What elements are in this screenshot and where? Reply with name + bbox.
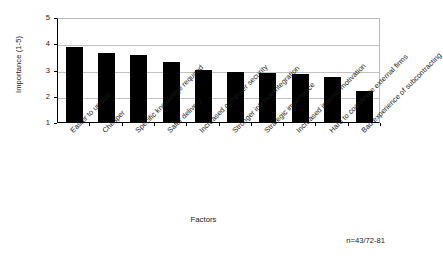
x-axis-title-text: Factors bbox=[191, 215, 217, 224]
y-axis-tick-label: 1 bbox=[30, 119, 50, 127]
x-axis-tick-mark bbox=[348, 123, 349, 126]
x-axis-tick-mark bbox=[154, 123, 155, 126]
bar bbox=[130, 55, 147, 122]
x-axis-title: Factors bbox=[0, 215, 397, 224]
y-axis-tick-label: 3 bbox=[30, 67, 50, 75]
x-axis-tick-mark bbox=[89, 123, 90, 126]
gridline bbox=[58, 45, 379, 46]
x-axis-tick-mark bbox=[251, 123, 252, 126]
y-axis-tick-label: 5 bbox=[30, 14, 50, 22]
x-axis-tick-mark bbox=[186, 123, 187, 126]
y-axis-tick-mark bbox=[54, 123, 57, 124]
sample-size-note: n=43/72-81 bbox=[346, 236, 385, 245]
y-axis-title: Importance (1-5) bbox=[14, 15, 23, 115]
y-axis-tick-label: 4 bbox=[30, 40, 50, 48]
x-axis-tick-mark bbox=[219, 123, 220, 126]
x-axis-tick-mark bbox=[283, 123, 284, 126]
x-axis-tick-mark bbox=[380, 123, 381, 126]
bar bbox=[98, 53, 115, 122]
x-axis-tick-mark bbox=[122, 123, 123, 126]
bar bbox=[66, 47, 83, 122]
x-axis-tick-mark bbox=[315, 123, 316, 126]
y-axis-tick-label: 2 bbox=[30, 93, 50, 101]
